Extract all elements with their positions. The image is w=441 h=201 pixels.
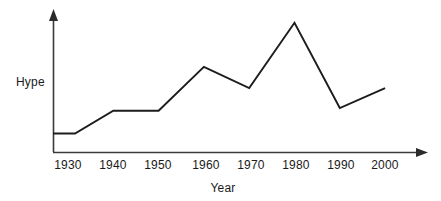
x-tick-label-1930: 1930 xyxy=(54,159,82,171)
x-tick-label-1990: 1990 xyxy=(327,159,355,171)
y-axis-label: Hype xyxy=(16,76,45,88)
x-tick-label-1950: 1950 xyxy=(144,159,172,171)
x-tick-label-1970: 1970 xyxy=(237,159,265,171)
x-tick-label-2000: 2000 xyxy=(371,159,399,171)
x-tick-label-1940: 1940 xyxy=(99,159,127,171)
x-axis-label: Year xyxy=(210,182,235,194)
x-tick-label-1980: 1980 xyxy=(282,159,310,171)
y-axis-arrowhead xyxy=(49,9,58,21)
hype-vs-year-chart: Hype 1930 1940 1950 1960 1970 1980 1990 … xyxy=(0,0,441,201)
hype-data-line xyxy=(53,23,385,134)
x-tick-label-1960: 1960 xyxy=(192,159,220,171)
x-axis-arrowhead xyxy=(416,148,428,157)
